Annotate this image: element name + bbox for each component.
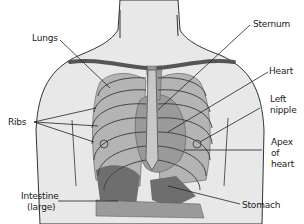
- sternum: [146, 70, 158, 170]
- label-left-nipple-line1: Left: [270, 94, 286, 104]
- label-lungs: Lungs: [32, 33, 58, 43]
- label-left-nipple-line2: nipple: [270, 105, 296, 115]
- label-ribs: Ribs: [8, 117, 26, 127]
- label-apex-line1: Apex: [271, 137, 293, 147]
- label-apex-line2: of: [271, 148, 279, 158]
- liver: [96, 165, 140, 205]
- label-apex-line3: heart: [271, 159, 294, 169]
- label-heart: Heart: [269, 66, 293, 76]
- label-stomach: Stomach: [242, 200, 280, 210]
- label-intestine-line1: Intestine: [21, 191, 59, 201]
- label-sternum: Sternum: [253, 19, 290, 29]
- label-intestine-line2: (large): [27, 202, 55, 212]
